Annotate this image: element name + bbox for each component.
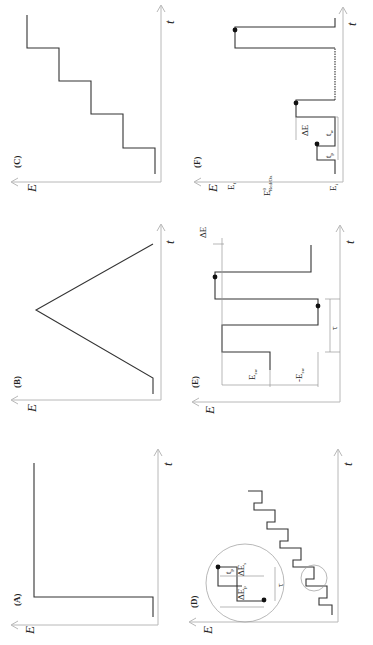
- neg-e-sw-label: -Esw: [294, 368, 305, 382]
- sampling-point: [315, 142, 320, 147]
- t-axis-label: t: [162, 240, 177, 244]
- sampling-point: [233, 28, 238, 33]
- normal-pulse-trace-start: [296, 100, 335, 174]
- e-axis-label: E: [22, 626, 37, 635]
- e-axis-label: E: [202, 406, 217, 415]
- electrochemical-waveforms-figure: (C) E t (B) E t (A) E t: [0, 0, 373, 645]
- delta-e-label: ΔE: [198, 226, 208, 238]
- panel-c: (C) E t: [11, 5, 177, 193]
- delta-e-p-label: ΔEp: [236, 586, 247, 600]
- t-p-label: tp: [223, 568, 234, 574]
- staircase-trace: [27, 15, 155, 174]
- t-axis-label: t: [342, 240, 357, 244]
- e0-redox-label: E0Red/Ox: [262, 175, 273, 196]
- t-axis-label: t: [344, 22, 359, 26]
- tau-label: τ: [329, 326, 339, 330]
- sampling-point: [216, 565, 221, 570]
- panel-label: (E): [190, 376, 200, 388]
- differential-pulse-trace: [248, 491, 332, 615]
- e-f-label: Ef: [226, 183, 237, 191]
- t-axis-label: t: [160, 462, 175, 466]
- t-p-label: tp: [323, 152, 334, 158]
- panel-label: (D): [189, 596, 199, 609]
- sampling-point: [316, 304, 321, 309]
- panel-label: (F): [192, 157, 202, 169]
- sampling-point: [294, 101, 299, 106]
- tau-label: τ: [275, 583, 285, 587]
- normal-pulse-trace-end: [235, 18, 335, 48]
- panel-d: (D) E t ΔEp ΔEs tp τ: [189, 449, 355, 635]
- e-axis-label: E: [205, 184, 220, 193]
- sampling-point: [213, 275, 218, 280]
- panel-label: (B): [12, 376, 22, 388]
- e-axis-label: E: [200, 626, 215, 635]
- panel-a: (A) E t: [11, 449, 175, 635]
- e-sw-label: Esw: [247, 369, 258, 380]
- panel-b: (B) E t: [11, 224, 177, 413]
- delta-e-label: ΔE: [300, 124, 310, 136]
- panel-label: (A): [12, 594, 22, 607]
- potential-step-trace: [34, 463, 153, 617]
- t-axis-label: t: [340, 462, 355, 466]
- panel-f: (F) E t Ef E0Red/Ox Ei ΔE tp tw: [192, 7, 359, 196]
- e-axis-label: E: [24, 404, 39, 413]
- sampling-point: [262, 598, 267, 603]
- t-axis-label: t: [162, 20, 177, 24]
- t-w-label: tw: [323, 129, 334, 136]
- e-i-label: Ei: [328, 184, 339, 192]
- triangular-sweep-trace: [36, 244, 153, 394]
- delta-e-s-label: ΔEs: [236, 563, 247, 576]
- panel-e: (E) E t Esw -Esw τ ΔE: [190, 225, 357, 415]
- e-axis-label: E: [24, 184, 39, 193]
- panel-label: (C): [12, 156, 22, 169]
- square-wave-trace: [215, 245, 318, 370]
